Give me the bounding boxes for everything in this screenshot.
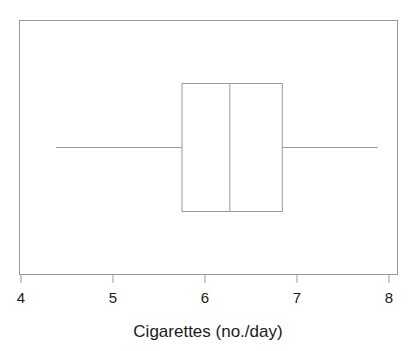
x-tick-label: 7 [293, 289, 301, 306]
x-axis-title: Cigarettes (no./day) [133, 322, 282, 341]
x-axis-ticks [21, 275, 389, 283]
plot-canvas: 4 5 6 7 8 Cigarettes (no./day) [0, 0, 416, 351]
interquartile-box [182, 84, 282, 212]
box-plot-figure: 4 5 6 7 8 Cigarettes (no./day) [0, 0, 416, 351]
x-tick-label: 4 [17, 289, 25, 306]
x-tick-label: 6 [201, 289, 209, 306]
x-tick-label: 8 [385, 289, 393, 306]
x-tick-label: 5 [109, 289, 117, 306]
x-axis-tick-labels: 4 5 6 7 8 [17, 289, 393, 306]
